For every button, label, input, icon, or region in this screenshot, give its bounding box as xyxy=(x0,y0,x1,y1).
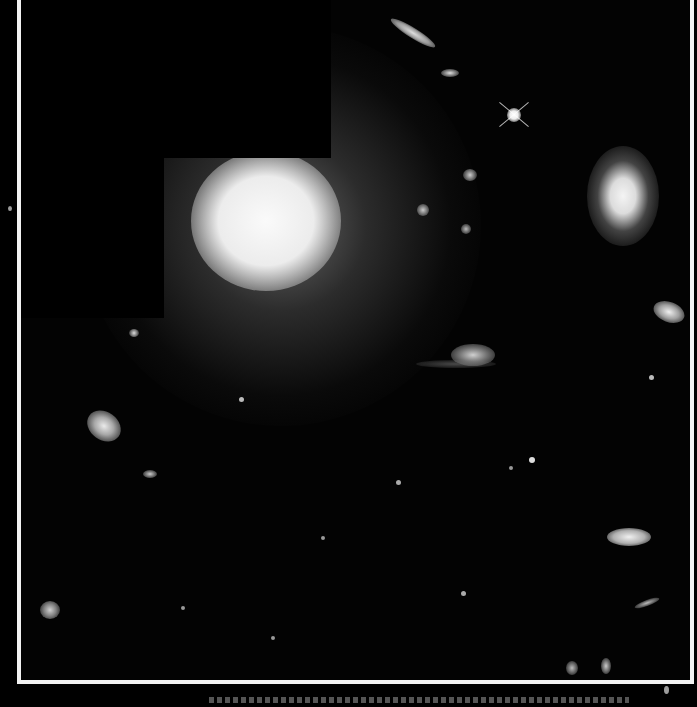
small-star xyxy=(239,397,244,402)
small-galaxy xyxy=(441,69,459,77)
small-galaxy xyxy=(417,204,429,216)
small-galaxy xyxy=(461,224,471,234)
deep-field-image xyxy=(21,0,690,680)
small-galaxy xyxy=(566,661,578,675)
small-star xyxy=(321,536,325,540)
small-galaxy xyxy=(601,658,611,674)
small-galaxy xyxy=(143,470,157,478)
small-star xyxy=(461,591,466,596)
giant-elliptical-galaxy xyxy=(191,151,341,291)
face-on-spiral-galaxy xyxy=(587,146,659,246)
small-star xyxy=(509,466,513,470)
small-galaxy xyxy=(129,329,139,337)
tidal-tail xyxy=(416,360,496,368)
fuzzy-galaxy-lower-left xyxy=(40,601,60,619)
small-galaxy xyxy=(463,169,477,181)
caption-strip xyxy=(0,693,697,707)
spiral-galaxy-lower-right xyxy=(607,528,651,546)
small-star xyxy=(649,375,654,380)
galaxy-with-star-right xyxy=(651,297,688,327)
small-star xyxy=(529,457,535,463)
caption-cut-off-text xyxy=(209,697,629,703)
image-frame xyxy=(17,0,694,684)
stray-dot xyxy=(8,206,12,211)
small-galaxy xyxy=(634,596,660,611)
small-star xyxy=(181,606,185,610)
edge-on-galaxy-top xyxy=(388,15,437,51)
elliptical-galaxy-left xyxy=(81,404,127,448)
small-star xyxy=(271,636,275,640)
wfpc-mask-left xyxy=(21,158,164,318)
small-star xyxy=(396,480,401,485)
wfpc-mask-top-left xyxy=(21,0,331,158)
